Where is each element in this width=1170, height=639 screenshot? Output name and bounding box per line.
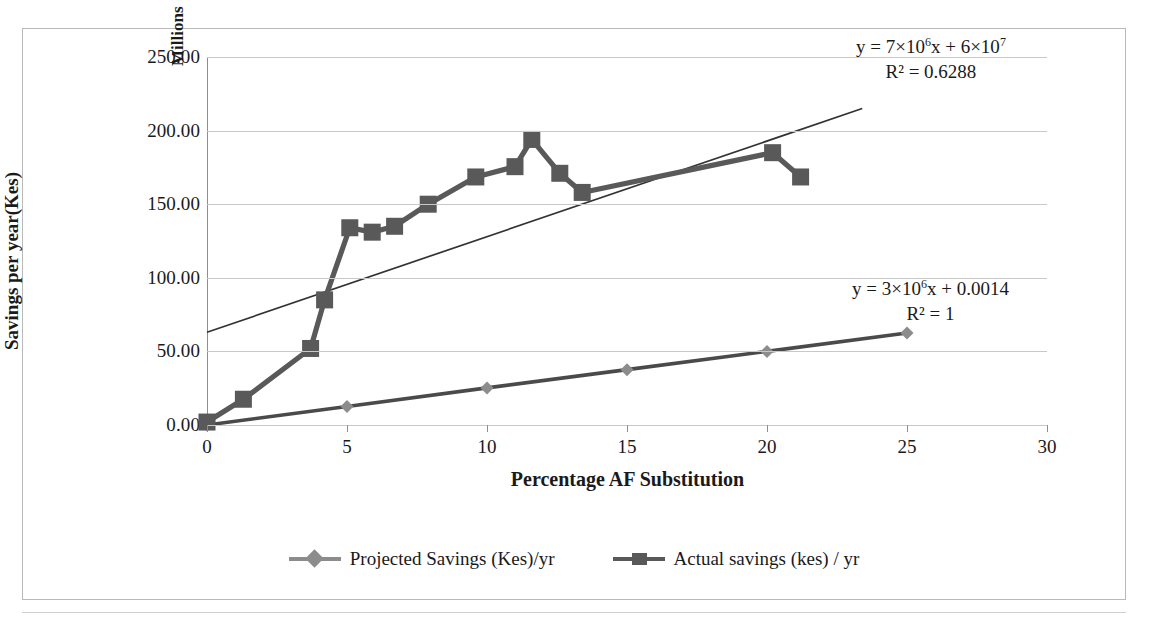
equation-lead: y = 7×10: [856, 36, 925, 57]
y-tick-label: 200.00: [10, 120, 200, 142]
series-canvas: [207, 57, 1047, 425]
y-tick-label: 100.00: [10, 267, 200, 289]
data-point-actual: [341, 219, 358, 236]
data-point-actual: [235, 391, 252, 408]
x-tick: [487, 425, 488, 432]
data-point-actual: [574, 184, 591, 201]
x-tick: [207, 425, 208, 432]
x-tick: [1047, 425, 1048, 432]
equation-mid: x + 6×10: [931, 36, 1000, 57]
x-tick: [767, 425, 768, 432]
data-point-actual: [792, 168, 809, 185]
data-point-projected: [621, 363, 634, 376]
x-tick-label: 10: [478, 436, 497, 458]
y-tick-label: 50.00: [10, 340, 200, 362]
data-point-actual: [302, 340, 319, 357]
y-tick-label: 150.00: [10, 193, 200, 215]
r-squared-label: R² = 0.6288: [856, 59, 1006, 84]
series-line-actual: [207, 139, 801, 422]
legend-item-projected[interactable]: Projected Savings (Kes)/yr: [289, 548, 555, 570]
data-point-actual: [316, 291, 333, 308]
legend-item-actual[interactable]: Actual savings (kes) / yr: [613, 548, 860, 570]
x-tick-label: 30: [1038, 436, 1057, 458]
trendline-equation-projected: y = 3×106x + 0.0014 R² = 1: [852, 276, 1009, 326]
data-point-projected: [341, 400, 354, 413]
legend-label-projected: Projected Savings (Kes)/yr: [350, 548, 555, 570]
data-point-actual: [523, 131, 540, 148]
data-point-projected: [481, 381, 494, 394]
diamond-marker-icon: [289, 552, 341, 566]
equation-line-1: y = 3×106x + 0.0014: [852, 276, 1009, 301]
data-point-actual: [467, 168, 484, 185]
equation-exponent-2: 7: [1000, 35, 1006, 49]
x-tick-label: 0: [202, 436, 212, 458]
data-point-actual: [507, 158, 524, 175]
data-point-actual: [386, 218, 403, 235]
x-tick-label: 5: [342, 436, 352, 458]
gridline: [207, 204, 1047, 205]
trendline-equation-actual: y = 7×106x + 6×107 R² = 0.6288: [856, 34, 1006, 84]
x-axis-title: Percentage AF Substitution: [207, 468, 1048, 491]
y-axis-tick-labels: 0.0050.00100.00150.00200.00250.00: [0, 0, 200, 639]
gridline: [207, 131, 1047, 132]
x-tick: [907, 425, 908, 432]
data-point-actual: [551, 165, 568, 182]
r-squared-label: R² = 1: [852, 301, 1009, 326]
x-tick-label: 20: [758, 436, 777, 458]
plot-area: [207, 57, 1047, 425]
x-tick-label: 15: [618, 436, 637, 458]
y-axis-title: Savings per year(Kes): [1, 131, 23, 391]
gridline: [207, 351, 1047, 352]
chart-legend: Projected Savings (Kes)/yr Actual saving…: [22, 548, 1126, 570]
equation-lead: y = 3×10: [852, 278, 921, 299]
data-point-actual: [764, 144, 781, 161]
y-tick-label: 0.00: [10, 414, 200, 436]
equation-line-1: y = 7×106x + 6×107: [856, 34, 1006, 59]
x-tick-label: 25: [898, 436, 917, 458]
equation-mid: x + 0.0014: [927, 278, 1009, 299]
square-marker-icon: [613, 552, 665, 566]
data-point-projected: [901, 327, 914, 340]
legend-label-actual: Actual savings (kes) / yr: [674, 548, 860, 570]
x-tick: [627, 425, 628, 432]
x-tick: [347, 425, 348, 432]
data-point-actual: [364, 224, 381, 241]
y-axis-unit-label: Millions: [168, 6, 188, 66]
